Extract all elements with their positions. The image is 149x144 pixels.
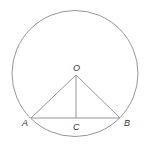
segment-ob xyxy=(76,75,120,118)
label-a: A xyxy=(21,118,28,128)
geometry-diagram: O A B C xyxy=(0,0,149,144)
label-c: C xyxy=(73,122,80,132)
label-o: O xyxy=(73,63,80,73)
label-b: B xyxy=(124,118,130,128)
segment-oa xyxy=(31,75,76,118)
